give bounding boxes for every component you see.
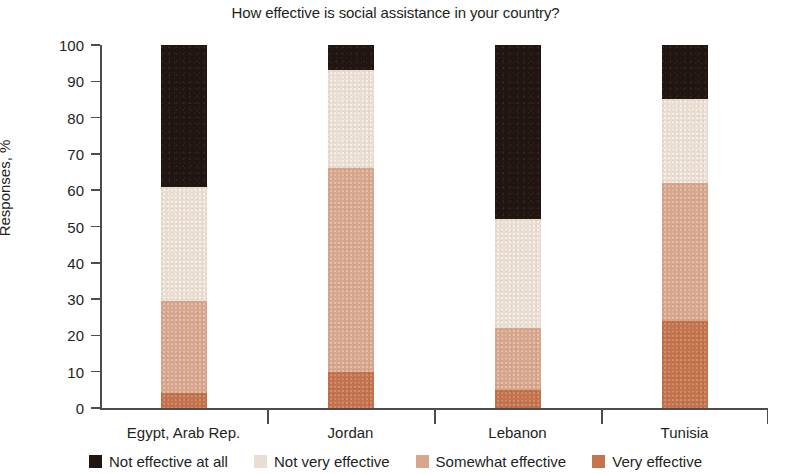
legend-item[interactable]: Somewhat effective <box>416 454 567 469</box>
bar-segment <box>161 187 207 301</box>
bar-segment <box>662 183 708 321</box>
y-axis-tick-label: 0 <box>42 401 84 416</box>
x-axis-tick <box>434 408 436 424</box>
y-axis-line <box>100 45 102 408</box>
legend-swatch-not-effective-at-all-icon <box>89 455 102 468</box>
bar-segment <box>161 393 207 408</box>
bar-stack <box>328 45 374 408</box>
y-axis-tick <box>91 407 100 409</box>
y-axis-tick <box>91 371 100 373</box>
y-axis-tick-label: 20 <box>42 328 84 343</box>
bar-stack <box>662 45 708 408</box>
bar-segment <box>328 372 374 408</box>
bar-segment <box>495 390 541 408</box>
chart-root: How effective is social assistance in yo… <box>0 0 791 474</box>
y-axis-title: Responses, % <box>0 140 13 237</box>
bar-segment <box>662 321 708 408</box>
bar-segment <box>662 99 708 182</box>
legend-label: Very effective <box>612 454 702 469</box>
legend-swatch-not-very-effective-icon <box>254 455 267 468</box>
y-axis-tick-label: 70 <box>42 147 84 162</box>
bar-segment <box>328 70 374 168</box>
bar-segment <box>662 45 708 99</box>
y-axis-tick <box>91 81 100 83</box>
legend-item[interactable]: Not very effective <box>254 454 390 469</box>
legend-swatch-somewhat-effective-icon <box>416 455 429 468</box>
y-axis-tick-label: 50 <box>42 220 84 235</box>
y-axis-tick <box>91 298 100 300</box>
x-axis-category-label: Tunisia <box>601 424 768 441</box>
y-axis-tick <box>91 262 100 264</box>
bar-segment <box>161 45 207 187</box>
bar-segment <box>161 301 207 394</box>
bar-segment <box>495 219 541 328</box>
legend-item[interactable]: Not effective at all <box>89 454 228 469</box>
x-axis-tick <box>767 408 769 424</box>
legend-label: Not very effective <box>274 454 390 469</box>
y-axis-tick-label: 90 <box>42 74 84 89</box>
y-axis-tick <box>91 189 100 191</box>
chart-title: How effective is social assistance in yo… <box>0 4 791 21</box>
y-axis-tick <box>91 117 100 119</box>
y-axis-tick <box>91 226 100 228</box>
y-axis-tick-label: 60 <box>42 183 84 198</box>
legend-label: Somewhat effective <box>436 454 567 469</box>
x-axis-category-label: Jordan <box>267 424 434 441</box>
y-axis-tick-label: 10 <box>42 365 84 380</box>
x-axis-category-label: Lebanon <box>434 424 601 441</box>
bar-stack <box>495 45 541 408</box>
x-axis-tick <box>601 408 603 424</box>
legend-swatch-very-effective-icon <box>592 455 605 468</box>
x-axis-category-label: Egypt, Arab Rep. <box>100 424 267 441</box>
plot-area: 0102030405060708090100 <box>100 45 768 408</box>
y-axis-tick-label: 80 <box>42 111 84 126</box>
bar-stack <box>161 45 207 408</box>
y-axis-tick <box>91 153 100 155</box>
y-axis-tick <box>91 44 100 46</box>
chart-legend: Not effective at allNot very effectiveSo… <box>0 450 791 472</box>
y-axis-tick-label: 30 <box>42 292 84 307</box>
y-axis-tick-label: 40 <box>42 256 84 271</box>
y-axis-tick-label: 100 <box>42 38 84 53</box>
bar-segment <box>495 45 541 219</box>
legend-label: Not effective at all <box>109 454 228 469</box>
legend-item[interactable]: Very effective <box>592 454 702 469</box>
bar-segment <box>328 45 374 70</box>
bar-segment <box>328 168 374 371</box>
x-axis-tick <box>267 408 269 424</box>
bar-segment <box>495 328 541 390</box>
y-axis-tick <box>91 335 100 337</box>
